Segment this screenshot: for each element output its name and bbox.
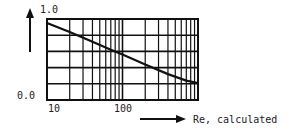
x-axis-label: Re, calculated — [193, 114, 277, 125]
chart: 1.0 0.0 10 100 Re, calculated — [0, 0, 308, 130]
x-tick-label-100: 100 — [114, 103, 132, 114]
y-axis-arrow-icon — [26, 8, 34, 52]
y-tick-label-top: 1.0 — [40, 4, 58, 15]
y-tick-label-bottom: 0.0 — [17, 90, 35, 101]
x-axis-arrow-icon — [140, 115, 186, 123]
x-tick-label-10: 10 — [48, 103, 60, 114]
